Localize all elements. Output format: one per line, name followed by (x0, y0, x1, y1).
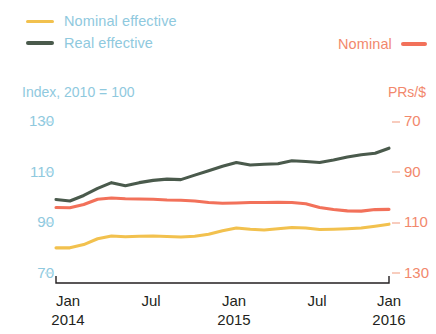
x-axis-tick-jan-2015: Jan 2015 (204, 292, 264, 329)
x-tick-month: Jul (287, 292, 347, 310)
x-axis-tick-jan-2014: Jan 2014 (38, 292, 98, 329)
x-tick-month: Jan (359, 292, 419, 310)
x-tick-year: 2015 (204, 310, 264, 329)
x-axis-tick-jan-2016: Jan 2016 (359, 292, 419, 329)
x-tick-year: 2014 (38, 310, 98, 329)
x-tick-month: Jul (121, 292, 181, 310)
x-axis-tick-jul-2014: Jul (121, 292, 181, 310)
series-lines (56, 148, 389, 248)
right-axis-tick-marks (392, 122, 400, 273)
series-line-nominal-prs (56, 198, 389, 211)
x-tick-year: 2016 (359, 310, 419, 329)
series-line-nominal-effective (56, 224, 389, 248)
x-tick-month: Jan (38, 292, 98, 310)
x-axis-line (56, 276, 389, 283)
left-axis-tick-marks (45, 122, 53, 273)
chart-container: Nominal effective Real effective Nominal… (0, 0, 436, 334)
plot-area (0, 0, 436, 334)
series-line-real-effective (56, 148, 389, 201)
x-tick-month: Jan (204, 292, 264, 310)
x-axis-tick-jul-2015: Jul (287, 292, 347, 310)
